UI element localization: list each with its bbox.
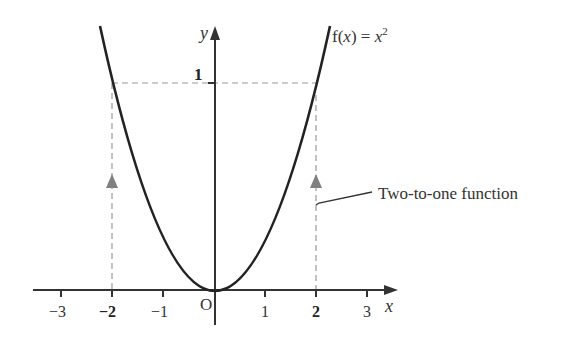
y-axis-arrow-icon: [210, 26, 220, 40]
x-tick-1: 1: [261, 304, 269, 320]
x-tick-m3: −3: [49, 304, 66, 320]
origin-label: O: [200, 296, 212, 313]
x-tick-m1: −1: [151, 304, 168, 320]
x-tick-3: 3: [363, 304, 371, 320]
x-tick-m2: −2: [99, 304, 116, 320]
annotation-label: Two-to-one function: [378, 185, 518, 202]
annotation-leader-line: [316, 192, 372, 205]
y-axis-label: y: [200, 24, 208, 42]
x-tick-2: 2: [312, 304, 320, 320]
up-arrow-icon: [310, 174, 322, 188]
y-tick-1: 1: [194, 66, 203, 83]
function-label: f(x) = x2: [332, 26, 388, 45]
graph-canvas: [0, 0, 582, 337]
x-axis-arrow-icon: [384, 285, 398, 295]
x-axis-label: x: [385, 297, 393, 315]
up-arrow-icon: [106, 174, 118, 188]
